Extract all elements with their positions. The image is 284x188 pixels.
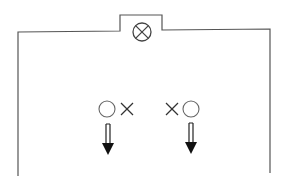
left-down-arrow-icon bbox=[102, 124, 114, 155]
diagram-svg bbox=[0, 0, 284, 188]
right-down-arrow-icon bbox=[185, 123, 197, 154]
lamp-icon bbox=[133, 23, 151, 41]
left-circle-icon bbox=[99, 101, 115, 117]
enclosure-outline bbox=[18, 15, 270, 176]
right-circle-icon bbox=[183, 101, 199, 117]
right-marker bbox=[166, 101, 199, 117]
right-cross-icon bbox=[166, 103, 178, 115]
left-marker bbox=[99, 101, 133, 117]
diagram-canvas bbox=[0, 0, 284, 188]
left-cross-icon bbox=[121, 103, 133, 115]
